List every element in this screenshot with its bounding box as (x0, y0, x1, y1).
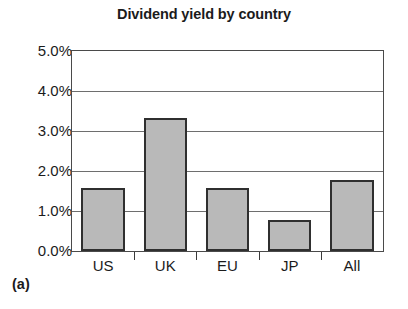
bar-all (330, 180, 374, 251)
y-axis-tick-label: 1.0% (2, 203, 72, 218)
x-axis-tick-label-eu: EU (196, 258, 258, 275)
y-axis-tick-label: 5.0% (2, 43, 72, 58)
bar-jp (268, 220, 312, 251)
chart-title: Dividend yield by country (0, 6, 408, 22)
bar-us (81, 188, 125, 251)
bar-series (72, 51, 383, 251)
y-axis-tick-label: 0.0% (2, 243, 72, 258)
bar-eu (206, 188, 250, 251)
y-axis-tick-label: 3.0% (2, 123, 72, 138)
y-axis-tick-label: 2.0% (2, 163, 72, 178)
y-axis-tick-label: 4.0% (2, 83, 72, 98)
x-axis-tick-label-jp: JP (259, 258, 321, 275)
x-axis-tick-label-all: All (321, 258, 383, 275)
x-axis-tick-label-us: US (72, 258, 134, 275)
bar-uk (144, 118, 188, 251)
figure-panel: Dividend yield by country 5.0%4.0%3.0%2.… (0, 0, 408, 309)
panel-label: (a) (12, 276, 30, 292)
x-axis-tick-label-uk: UK (134, 258, 196, 275)
